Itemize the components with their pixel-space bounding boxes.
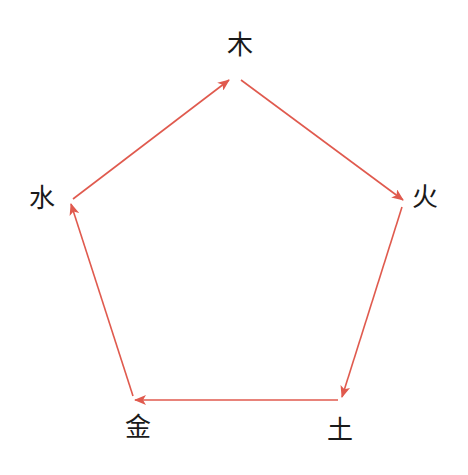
edge-water-to-wood [73,80,229,199]
node-label-metal: 金 [125,414,151,440]
node-label-earth: 土 [327,417,353,443]
edge-wood-to-fire [241,80,403,200]
node-label-water: 水 [29,185,55,211]
node-label-fire: 火 [412,184,438,210]
cycle-edges [71,80,403,400]
five-elements-cycle-diagram [0,0,468,475]
edge-fire-to-earth [342,207,402,397]
node-label-wood: 木 [227,32,253,58]
edge-metal-to-water [71,204,133,396]
